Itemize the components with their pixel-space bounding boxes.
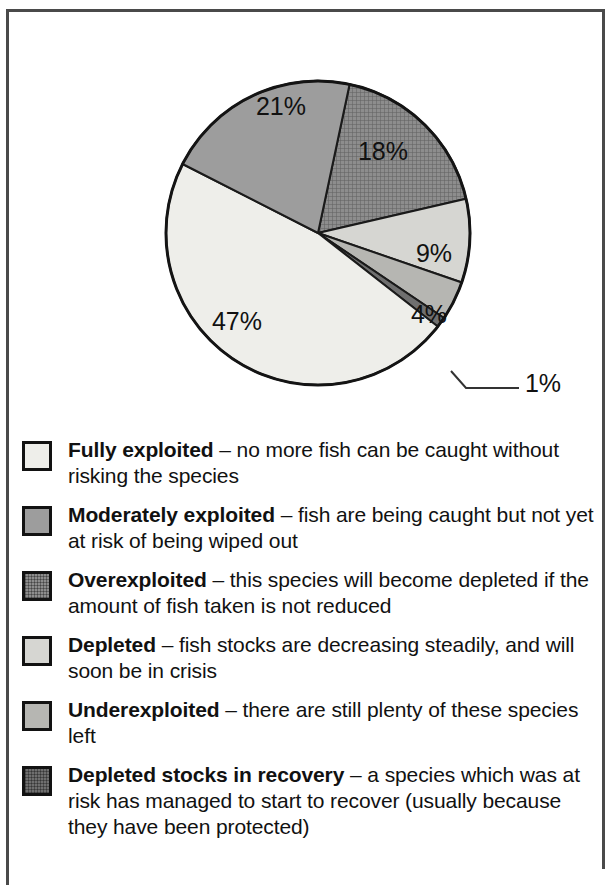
pie-chart-svg: 18%9%4%1%47%21%: [0, 0, 612, 430]
legend-item-term: Moderately exploited: [68, 503, 275, 526]
legend-swatch-icon: [22, 571, 52, 601]
pie-label-overexploited: 18%: [358, 137, 408, 165]
legend-item-text: Fully exploited – no more fish can be ca…: [68, 437, 598, 489]
pie-slice-group: [166, 81, 470, 385]
legend-item-term: Overexploited: [68, 568, 207, 591]
pie-label-fully-exploited: 47%: [212, 307, 262, 335]
legend-item[interactable]: Depleted stocks in recovery – a species …: [22, 762, 598, 840]
legend-item-dash: –: [219, 698, 242, 721]
legend-swatch-crosshatch: [25, 769, 49, 793]
legend-item[interactable]: Fully exploited – no more fish can be ca…: [22, 437, 598, 489]
legend-swatch-fill: [25, 639, 49, 663]
legend-swatch-icon: [22, 701, 52, 731]
legend-item-term: Depleted: [68, 633, 156, 656]
legend-swatch-icon: [22, 506, 52, 536]
legend-item-term: Depleted stocks in recovery: [68, 763, 344, 786]
figure-page: 18%9%4%1%47%21% Fully exploited – no mor…: [0, 0, 612, 894]
pie-label-underexploited: 4%: [411, 300, 447, 328]
legend-item-dash: –: [214, 438, 237, 461]
legend-item-dash: –: [275, 503, 298, 526]
legend-item[interactable]: Underexploited – there are still plenty …: [22, 697, 598, 749]
legend-swatch-fill: [25, 509, 49, 533]
legend-item-text: Overexploited – this species will become…: [68, 567, 598, 619]
legend-swatch-icon: [22, 766, 52, 796]
legend-swatch-fill: [25, 704, 49, 728]
legend-item-term: Underexploited: [68, 698, 219, 721]
legend-swatch-icon: [22, 636, 52, 666]
pie-label-moderately-exploited: 21%: [256, 92, 306, 120]
legend-item-text: Depleted – fish stocks are decreasing st…: [68, 632, 598, 684]
legend-swatch-crosshatch: [25, 574, 49, 598]
legend-item-text: Depleted stocks in recovery – a species …: [68, 762, 598, 840]
legend-item-term: Fully exploited: [68, 438, 214, 461]
legend-item-text: Underexploited – there are still plenty …: [68, 697, 598, 749]
pie-chart: 18%9%4%1%47%21%: [0, 0, 612, 430]
legend-item[interactable]: Overexploited – this species will become…: [22, 567, 598, 619]
legend-item-dash: –: [207, 568, 230, 591]
pie-label-depleted: 9%: [416, 239, 452, 267]
legend-item-text: Moderately exploited – fish are being ca…: [68, 502, 598, 554]
legend-item-dash: –: [344, 763, 367, 786]
callout-leader-line: [451, 371, 519, 388]
legend-item[interactable]: Depleted – fish stocks are decreasing st…: [22, 632, 598, 684]
legend-swatch-fill: [25, 444, 49, 468]
legend-swatch-icon: [22, 441, 52, 471]
legend-item-dash: –: [156, 633, 179, 656]
legend: Fully exploited – no more fish can be ca…: [22, 437, 598, 840]
pie-label-depleted-stocks-in-recovery: 1%: [525, 369, 561, 397]
legend-item[interactable]: Moderately exploited – fish are being ca…: [22, 502, 598, 554]
pie-callout-group: [451, 371, 519, 388]
